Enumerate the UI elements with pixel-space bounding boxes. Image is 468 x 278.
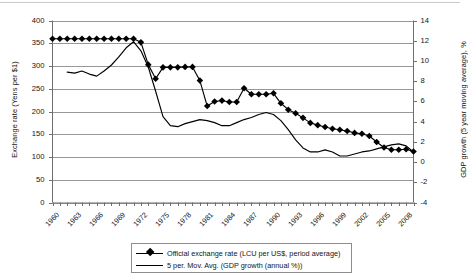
gridlines-group	[53, 22, 414, 204]
y-axis-left-tick: 0	[15, 198, 45, 207]
y-axis-right-tick: 12	[421, 36, 451, 45]
y-axis-right-tick: 14	[421, 16, 451, 25]
axis-lines-group	[53, 21, 414, 204]
y-axis-left-tick: 400	[15, 16, 45, 25]
y-axis-right-tick: 0	[421, 157, 451, 166]
y-axis-right-tick: -4	[421, 198, 451, 207]
y-axis-left-tick: 100	[15, 152, 45, 161]
chart-legend: Official exchange rate (LCU per US$, per…	[131, 243, 352, 273]
y-axis-left-tick: 150	[15, 129, 45, 138]
y-axis-right-title: GDP growth (5 year moving average), %	[459, 15, 468, 205]
y-axis-left-tick: 50	[15, 175, 45, 184]
y-axis-left-tick: 200	[15, 107, 45, 116]
y-axis-right-tick: 10	[421, 56, 451, 65]
y-axis-right-tick: -2	[421, 177, 451, 186]
series-gdp-growth-line	[67, 42, 413, 156]
legend-label-gdp-growth: 5 per. Mov. Avg. (GDP growth (annual %))	[167, 261, 302, 270]
y-axis-left-tick: 350	[15, 38, 45, 47]
legend-item-exchange-rate: Official exchange rate (LCU per US$, per…	[136, 247, 347, 259]
series-exchange-rate-markers	[49, 35, 417, 154]
legend-marker-line-with-diamond-icon	[136, 248, 163, 259]
y-axis-left-tick: 250	[15, 84, 45, 93]
legend-label-exchange-rate: Official exchange rate (LCU per US$, per…	[167, 249, 340, 258]
y-axis-right-tick: 2	[421, 137, 451, 146]
y-axis-left-tick: 300	[15, 61, 45, 70]
tick-marks-group	[49, 22, 417, 207]
y-axis-right-tick: 8	[421, 76, 451, 85]
y-axis-right-tick: 4	[421, 117, 451, 126]
legend-marker-line-icon	[136, 260, 163, 271]
y-axis-right-tick: 6	[421, 96, 451, 105]
legend-item-gdp-growth: 5 per. Mov. Avg. (GDP growth (annual %))	[136, 259, 347, 271]
